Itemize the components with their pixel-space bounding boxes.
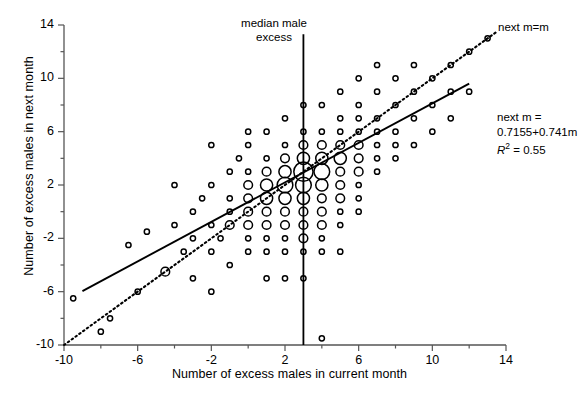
data-point [260, 179, 272, 191]
data-point [374, 62, 379, 67]
data-point [334, 152, 346, 164]
r-squared-annotation: R2 = 0.55 [497, 144, 546, 156]
scatter-plot-figure: -10-6-2261014-10-6-2261014 Number of exc… [0, 0, 579, 404]
data-point [281, 207, 290, 216]
median-male-excess-annotation: median male excess [219, 16, 329, 44]
data-point [281, 154, 290, 163]
data-point [244, 221, 253, 230]
data-point [316, 179, 328, 191]
data-point [393, 129, 398, 134]
data-point [282, 116, 287, 121]
data-point [317, 207, 326, 216]
data-point [264, 129, 269, 134]
data-point [244, 181, 253, 190]
data-point [227, 169, 232, 174]
fit-equation-line1: next m = [497, 111, 541, 123]
data-point [209, 249, 214, 254]
data-point [336, 167, 345, 176]
data-point [209, 182, 214, 187]
data-point [356, 182, 361, 187]
r-squared-value: = 0.55 [510, 144, 546, 156]
data-point [262, 207, 271, 216]
data-point [393, 142, 398, 147]
data-point [411, 116, 416, 121]
data-point [338, 249, 343, 254]
data-point [448, 116, 453, 121]
data-point [282, 236, 287, 241]
y-axis-title: Number of excess males in next month [22, 6, 36, 326]
x-tick-label: 6 [329, 353, 389, 367]
data-point [161, 267, 170, 276]
data-point [336, 181, 345, 190]
data-point [338, 129, 343, 134]
trend-lines-group [64, 32, 497, 345]
data-point [172, 222, 177, 227]
data-point [236, 156, 241, 161]
data-point [336, 194, 345, 203]
data-point [393, 76, 398, 81]
x-tick-label: 14 [476, 353, 536, 367]
x-tick-label: -2 [181, 353, 241, 367]
data-point [430, 129, 435, 134]
data-point [317, 194, 326, 203]
data-point [126, 242, 131, 247]
identity-line [64, 32, 497, 345]
data-point [264, 236, 269, 241]
x-tick-label: -6 [108, 353, 168, 367]
data-point [107, 316, 112, 321]
data-point [356, 196, 361, 201]
data-point [190, 236, 195, 241]
data-point [98, 329, 103, 334]
data-point [200, 196, 205, 201]
x-tick-label: 2 [255, 353, 315, 367]
data-point [338, 209, 343, 214]
data-point [262, 221, 271, 230]
data-point [71, 296, 76, 301]
data-point [246, 236, 251, 241]
median-annotation-line1: median male [241, 17, 307, 29]
data-point [374, 169, 379, 174]
data-point [354, 154, 363, 163]
data-point [282, 276, 287, 281]
median-annotation-line2: excess [256, 31, 292, 43]
data-point [246, 249, 251, 254]
x-tick-label: -10 [34, 353, 94, 367]
data-point [209, 289, 214, 294]
data-point [281, 221, 290, 230]
data-point [172, 182, 177, 187]
data-point [338, 222, 343, 227]
data-point [356, 76, 361, 81]
data-point [218, 236, 223, 241]
data-point [282, 249, 287, 254]
data-point [319, 336, 324, 341]
data-point [262, 167, 271, 176]
data-point [264, 276, 269, 281]
data-point [430, 76, 435, 81]
fit-equation-line2: 0.7155+0.741m [497, 126, 577, 138]
data-point [246, 142, 251, 147]
data-point [319, 129, 324, 134]
data-point [411, 142, 416, 147]
data-point [317, 141, 326, 150]
data-point [374, 89, 379, 94]
y-tick-label: -10 [2, 337, 54, 351]
data-point [356, 209, 361, 214]
data-point [319, 249, 324, 254]
data-point [227, 262, 232, 267]
data-point [227, 196, 232, 201]
data-point [264, 249, 269, 254]
data-point [279, 166, 291, 178]
data-point [338, 89, 343, 94]
data-point [190, 276, 195, 281]
data-point [374, 142, 379, 147]
data-point [181, 249, 186, 254]
data-point [356, 116, 361, 121]
data-point [354, 167, 363, 176]
identity-line-annotation: next m=m [498, 20, 549, 35]
data-point [411, 62, 416, 67]
plot-canvas [0, 0, 579, 404]
x-tick-label: 10 [402, 353, 462, 367]
regression-line [82, 84, 469, 291]
data-point [393, 156, 398, 161]
data-point [209, 222, 214, 227]
